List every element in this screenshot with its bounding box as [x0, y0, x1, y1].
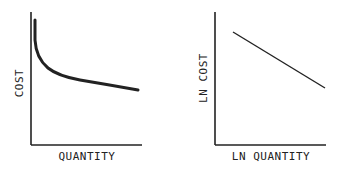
right-x-label: LN QUANTITY — [232, 150, 310, 163]
cost-curve — [35, 20, 138, 90]
left-x-label: QUANTITY — [59, 150, 116, 163]
charts: QUANTITY COST LN QUANTITY LN COST — [0, 0, 344, 169]
right-y-label: LN COST — [197, 53, 210, 103]
left-chart: QUANTITY COST — [13, 12, 142, 163]
ln-cost-line — [233, 32, 325, 88]
right-chart: LN QUANTITY LN COST — [197, 12, 326, 163]
left-y-label: COST — [13, 69, 26, 98]
